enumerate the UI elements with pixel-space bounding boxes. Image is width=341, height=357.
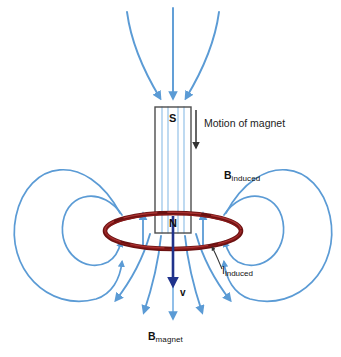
field-lines-above-magnet <box>127 8 219 98</box>
i-induced-subscript: induced <box>225 269 253 278</box>
induction-diagram: S N Motion of magnet Binduced Iinduced B… <box>0 0 341 357</box>
motion-of-magnet-label: Motion of magnet <box>204 118 285 129</box>
field-line-above-left <box>127 12 160 98</box>
induced-loop-left-inner <box>62 196 122 265</box>
b-magnet-subscript: magnet <box>156 335 183 344</box>
b-induced-symbol: B <box>224 169 232 181</box>
diagram-canvas <box>0 0 341 357</box>
b-induced-label: Binduced <box>224 170 260 181</box>
field-line-above-right <box>186 12 219 98</box>
magnet-south-pole-label: S <box>169 113 176 124</box>
b-induced-subscript: induced <box>232 174 261 183</box>
b-magnet-label: Bmagnet <box>148 331 183 342</box>
induced-loop-right-inner <box>224 196 284 265</box>
induced-current-leader-line <box>212 247 222 269</box>
velocity-label: v <box>180 288 186 298</box>
i-induced-label: Iinduced <box>222 265 253 276</box>
b-magnet-symbol: B <box>148 330 156 342</box>
magnet-north-pole-label: N <box>169 218 177 229</box>
